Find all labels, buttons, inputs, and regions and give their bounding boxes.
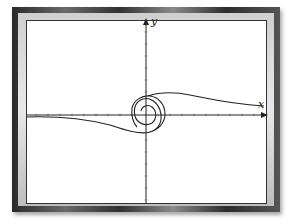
graph-svg [0, 0, 290, 224]
x-axis-arrow-icon [261, 112, 268, 118]
y-axis-label: y [151, 15, 157, 28]
x-axis-label: x [258, 98, 264, 111]
y-axis-arrow-icon [143, 18, 149, 25]
